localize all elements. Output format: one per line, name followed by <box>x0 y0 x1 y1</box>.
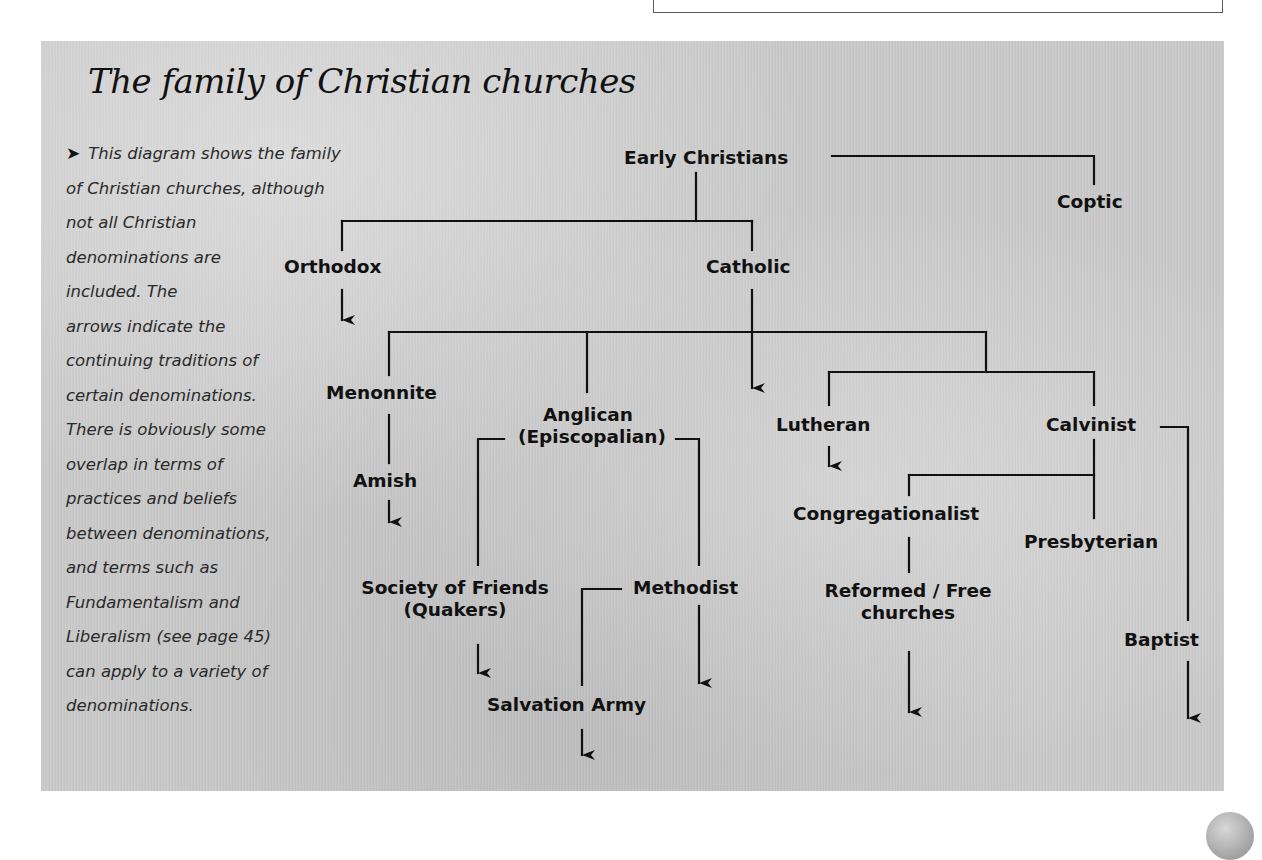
node-baptist: Baptist <box>1124 629 1199 651</box>
node-calvinist: Calvinist <box>1046 414 1136 436</box>
node-methodist: Methodist <box>633 577 738 599</box>
description-line: included. The <box>66 275 396 310</box>
node-reformed-line1: Reformed / Free <box>824 580 991 601</box>
node-orthodox: Orthodox <box>284 256 381 278</box>
description-line: continuing traditions of <box>66 344 396 379</box>
page-marker-circle <box>1206 812 1254 860</box>
description-line: can apply to a variety of <box>66 655 396 690</box>
node-society-of-friends: Society of Friends (Quakers) <box>344 577 566 621</box>
node-anglican-line2: (Episcopalian) <box>518 426 666 447</box>
node-presbyterian: Presbyterian <box>1024 531 1158 553</box>
node-amish: Amish <box>353 470 417 492</box>
node-menonnite: Menonnite <box>326 382 437 404</box>
node-society-line1: Society of Friends <box>361 577 548 598</box>
header-frame <box>653 0 1223 13</box>
diagram-title: The family of Christian churches <box>88 61 636 101</box>
node-early-christians: Early Christians <box>624 147 788 169</box>
node-congregationalist: Congregationalist <box>793 503 979 525</box>
node-society-line2: (Quakers) <box>404 599 507 620</box>
description-line: overlap in terms of <box>66 448 396 483</box>
node-catholic: Catholic <box>706 256 790 278</box>
description-line: ➤This diagram shows the family <box>66 136 396 172</box>
node-salvation-army: Salvation Army <box>487 694 646 716</box>
description-line: not all Christian <box>66 206 396 241</box>
node-reformed-free-churches: Reformed / Free churches <box>806 580 1010 624</box>
description-line: of Christian churches, although <box>66 172 396 207</box>
description-line: Liberalism (see page 45) <box>66 620 396 655</box>
description-line: There is obviously some <box>66 413 396 448</box>
description-line: arrows indicate the <box>66 310 396 345</box>
node-reformed-line2: churches <box>861 602 955 623</box>
description-text: ➤This diagram shows the family of Christ… <box>66 136 396 724</box>
bullet-arrow-icon: ➤ <box>66 143 80 163</box>
description-line: between denominations, <box>66 517 396 552</box>
description-line: denominations. <box>66 689 396 724</box>
description-line: practices and beliefs <box>66 482 396 517</box>
node-coptic: Coptic <box>1057 191 1123 213</box>
node-anglican: Anglican (Episcopalian) <box>518 404 658 448</box>
node-lutheran: Lutheran <box>776 414 870 436</box>
node-anglican-line1: Anglican <box>543 404 633 425</box>
